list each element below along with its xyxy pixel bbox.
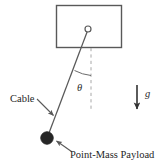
pendulum-payload-diagram: Cable Point-Mass Payload θ g <box>0 0 162 166</box>
gravity-g-label: g <box>145 88 150 99</box>
cable-label: Cable <box>10 93 35 104</box>
pivot-point-circle <box>85 26 91 32</box>
angle-theta-label: θ <box>77 82 82 93</box>
diagram-canvas: Cable Point-Mass Payload θ g <box>0 0 162 166</box>
payload-label: Point-Mass Payload <box>70 149 155 160</box>
cable-leader-arrow <box>37 99 54 116</box>
payload-mass-circle <box>41 132 53 144</box>
swing-angle-arc <box>75 71 92 76</box>
